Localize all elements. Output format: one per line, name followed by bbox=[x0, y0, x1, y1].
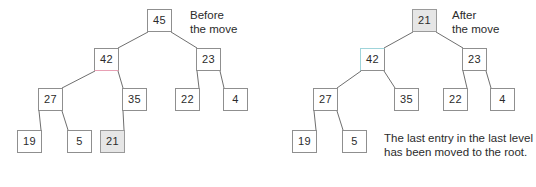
move-explanation-caption: The last entry in the last level has bee… bbox=[384, 131, 536, 159]
tree-edge bbox=[384, 71, 395, 88]
tree-node-27-after: 27 bbox=[313, 88, 338, 111]
tree-node-22-before: 22 bbox=[175, 88, 200, 111]
tree-edge bbox=[220, 71, 224, 88]
tree-node-23-before: 23 bbox=[196, 48, 221, 71]
tree-edge bbox=[118, 32, 148, 48]
tree-edge bbox=[197, 71, 199, 88]
tree-edge bbox=[62, 71, 95, 88]
tree-edge bbox=[337, 71, 361, 88]
tree-node-19-after: 19 bbox=[292, 130, 317, 153]
tree-node-5-before: 5 bbox=[67, 130, 92, 153]
tree-edge bbox=[118, 71, 123, 88]
heap-move-diagram: Before the move 45 42 23 27 35 22 4 19 5… bbox=[0, 0, 536, 187]
tree-edge bbox=[463, 71, 467, 88]
tree-node-21-after-highlighted: 21 bbox=[412, 9, 437, 32]
panel-before-label: Before the move bbox=[190, 8, 237, 36]
tree-edge bbox=[486, 71, 491, 88]
tree-node-45-before: 45 bbox=[147, 9, 172, 32]
tree-node-42-after: 42 bbox=[360, 48, 385, 71]
tree-edge bbox=[39, 111, 41, 130]
panel-after-label: After the move bbox=[452, 8, 499, 36]
tree-node-35-before: 35 bbox=[122, 88, 147, 111]
tree-edge bbox=[314, 111, 316, 130]
tree-node-42-before: 42 bbox=[94, 48, 119, 71]
tree-node-5-after: 5 bbox=[342, 130, 367, 153]
tree-node-22-after: 22 bbox=[443, 88, 468, 111]
tree-node-4-before: 4 bbox=[223, 88, 248, 111]
tree-node-35-after: 35 bbox=[394, 88, 419, 111]
tree-edge bbox=[123, 111, 124, 130]
tree-edge bbox=[384, 32, 413, 48]
tree-node-23-after: 23 bbox=[462, 48, 487, 71]
tree-node-27-before: 27 bbox=[38, 88, 63, 111]
tree-edge bbox=[62, 111, 68, 130]
tree-node-4-after: 4 bbox=[490, 88, 515, 111]
tree-node-19-before: 19 bbox=[17, 130, 42, 153]
tree-edge bbox=[337, 111, 343, 130]
tree-node-21-before-highlighted: 21 bbox=[100, 130, 125, 153]
